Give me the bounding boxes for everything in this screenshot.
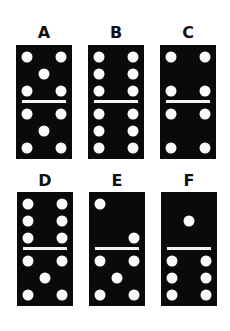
pip <box>39 69 50 80</box>
pip <box>128 109 139 120</box>
domino-label-f: F <box>161 173 217 189</box>
pip <box>94 126 105 137</box>
pip <box>57 216 68 227</box>
pip <box>201 290 212 301</box>
pip <box>200 109 211 120</box>
pip <box>22 143 33 154</box>
pip <box>95 199 106 210</box>
divider <box>22 100 66 103</box>
pip <box>23 233 34 244</box>
divider <box>166 100 210 103</box>
pip <box>95 290 106 301</box>
pip <box>95 256 106 267</box>
domino-label-c: C <box>160 25 216 41</box>
divider <box>94 100 138 103</box>
pip <box>166 52 177 63</box>
pip <box>167 256 178 267</box>
pip <box>39 126 50 137</box>
pip <box>94 109 105 120</box>
pip <box>129 233 140 244</box>
pip <box>167 273 178 284</box>
domino-label-e: E <box>89 173 145 189</box>
pip <box>22 109 33 120</box>
pip <box>56 52 67 63</box>
pip <box>166 109 177 120</box>
divider <box>167 247 211 250</box>
pip <box>56 86 67 97</box>
pip <box>22 86 33 97</box>
pip <box>129 256 140 267</box>
pip <box>128 143 139 154</box>
domino-e <box>89 192 145 306</box>
pip <box>56 143 67 154</box>
domino-d <box>17 192 73 306</box>
domino-label-a: A <box>16 25 72 41</box>
pip <box>57 290 68 301</box>
pip <box>200 86 211 97</box>
divider <box>95 247 139 250</box>
pip <box>184 216 195 227</box>
pip <box>94 69 105 80</box>
domino-f <box>161 192 217 306</box>
pip <box>201 256 212 267</box>
pip <box>23 216 34 227</box>
pip <box>167 290 178 301</box>
pip <box>128 86 139 97</box>
domino-b <box>88 45 144 159</box>
domino-c <box>160 45 216 159</box>
pip <box>201 273 212 284</box>
pip <box>166 86 177 97</box>
pip <box>128 69 139 80</box>
pip <box>94 86 105 97</box>
pip <box>112 273 123 284</box>
pip <box>23 290 34 301</box>
domino-label-b: B <box>88 25 144 41</box>
pip <box>94 143 105 154</box>
pip <box>22 52 33 63</box>
pip <box>129 290 140 301</box>
pip <box>57 199 68 210</box>
pip <box>23 199 34 210</box>
divider <box>23 247 67 250</box>
pip <box>57 256 68 267</box>
pip <box>23 256 34 267</box>
pip <box>40 273 51 284</box>
domino-label-d: D <box>17 173 73 189</box>
domino-a <box>16 45 72 159</box>
pip <box>200 143 211 154</box>
pip <box>56 109 67 120</box>
pip <box>94 52 105 63</box>
pip <box>128 126 139 137</box>
pip <box>57 233 68 244</box>
pip <box>200 52 211 63</box>
pip <box>128 52 139 63</box>
pip <box>166 143 177 154</box>
